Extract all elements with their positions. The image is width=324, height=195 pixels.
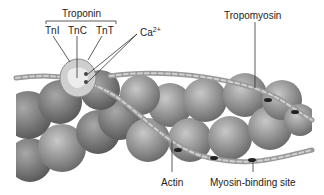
- calcium-symbol: Ca: [140, 27, 153, 38]
- actin-monomers: [4, 70, 316, 182]
- calcium-charge: 2+: [153, 26, 161, 33]
- label-calcium: Ca2+: [140, 26, 161, 38]
- label-actin: Actin: [161, 178, 183, 188]
- label-troponin: Troponin: [62, 9, 101, 19]
- troponin-complex: [60, 59, 96, 97]
- label-tnc: TnC: [68, 26, 87, 36]
- label-tni: TnI: [45, 26, 59, 36]
- label-tropomyosin: Tropomyosin: [224, 11, 281, 21]
- label-tnt: TnT: [96, 26, 114, 36]
- label-myosin-binding-site: Myosin-binding site: [210, 178, 296, 188]
